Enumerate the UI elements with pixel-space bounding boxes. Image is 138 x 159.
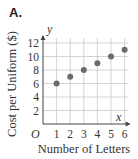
x-tick-label: 2	[67, 128, 73, 140]
y-axis-label: Cost per Uniform ($)	[5, 31, 19, 137]
x-tick-label: 5	[108, 128, 114, 140]
x-axis-arrow-icon	[126, 122, 131, 127]
data-point	[54, 81, 60, 87]
x-tick-label: 1	[54, 128, 60, 140]
data-point	[67, 74, 73, 80]
x-tick-label: 6	[122, 128, 128, 140]
data-points	[54, 47, 128, 87]
x-tick-label: 4	[95, 128, 101, 140]
y-tick-label: 6	[33, 78, 39, 90]
y-tick-label: 12	[28, 37, 40, 49]
y-tick-label: 4	[33, 91, 39, 103]
data-point	[122, 47, 128, 53]
x-axis-name: x	[115, 110, 122, 124]
origin-label: O	[31, 127, 40, 141]
data-point	[108, 54, 114, 60]
y-tick-label: 10	[28, 51, 40, 63]
data-point	[94, 60, 100, 66]
x-tick-label: 3	[81, 128, 87, 140]
data-point	[81, 67, 87, 73]
y-tick-label: 2	[33, 105, 39, 117]
y-axis-name: y	[46, 22, 53, 36]
y-tick-label: 8	[33, 64, 39, 76]
scatter-chart: 12345624681012 Cost per Uniform ($) Numb…	[0, 0, 138, 159]
x-axis-label: Number of Letters	[38, 142, 130, 156]
y-axis-arrow-icon	[41, 35, 46, 40]
